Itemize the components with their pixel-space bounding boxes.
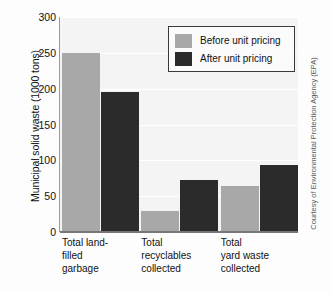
x-axis-category-label: Total recyclables collected	[141, 236, 191, 275]
y-axis-tick-labels: 050100150200250300	[26, 0, 56, 293]
y-tick-label: 150	[26, 120, 56, 130]
bar-before	[141, 211, 179, 233]
y-tick-label: 250	[26, 48, 56, 58]
bar-chart-figure: Municipal solid waste (1000 tons) 050100…	[0, 0, 332, 293]
bar-before	[221, 186, 259, 232]
bar-after	[260, 165, 298, 232]
bar-after	[101, 92, 139, 232]
gridline	[60, 17, 298, 18]
y-tick-label: 0	[26, 227, 56, 237]
x-axis-category-labels: Total land- filled garbageTotal recyclab…	[60, 236, 298, 286]
legend-label-before: Before unit pricing	[200, 35, 281, 46]
x-axis-category-label: Total land- filled garbage	[62, 236, 108, 275]
legend-item-before: Before unit pricing	[175, 32, 288, 49]
y-tick-label: 50	[26, 191, 56, 201]
legend-item-after: After unit pricing	[175, 50, 288, 67]
chart-legend: Before unit pricing After unit pricing	[168, 26, 295, 72]
bar-before	[62, 53, 100, 232]
y-tick-label: 300	[26, 12, 56, 22]
bar-after	[180, 180, 218, 232]
legend-label-after: After unit pricing	[200, 53, 272, 64]
x-axis-baseline	[60, 231, 298, 233]
x-axis-category-label: Total yard waste collected	[221, 236, 269, 275]
y-tick-label: 200	[26, 84, 56, 94]
legend-swatch-after-icon	[175, 52, 192, 66]
source-credit: Courtesy of Environmental Protection Age…	[309, 44, 318, 244]
legend-swatch-before-icon	[175, 34, 192, 48]
y-tick-label: 100	[26, 155, 56, 165]
